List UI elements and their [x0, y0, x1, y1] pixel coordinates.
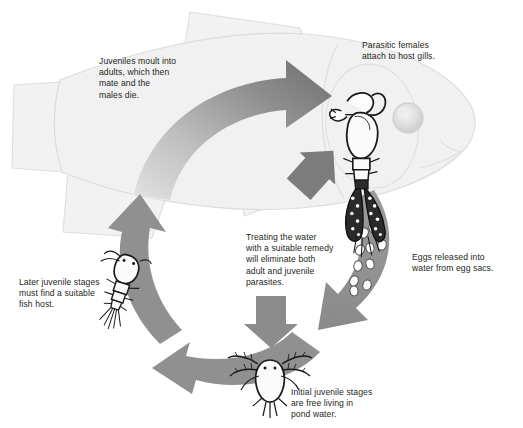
caption-later-juvenile-stages: Later juvenile stages must find a suitab…	[19, 277, 139, 311]
fish-eye-highlight	[398, 107, 409, 118]
caption-parasitic-females: Parasitic females attach to host gills.	[362, 40, 487, 62]
caption-juveniles-moult: Juveniles moult into adults, which then …	[99, 56, 224, 101]
caption-initial-juvenile-stages: Initial juvenile stages are free living …	[291, 387, 413, 421]
fish-eye	[393, 103, 423, 133]
caption-treating-water: Treating the water with a suitable remed…	[246, 232, 364, 288]
diagram-canvas	[0, 0, 523, 428]
life-cycle-diagram: Juveniles moult into adults, which then …	[0, 0, 523, 428]
arrow-hatch-left	[152, 332, 320, 394]
caption-eggs-released: Eggs released into water from egg sacs.	[412, 252, 523, 274]
